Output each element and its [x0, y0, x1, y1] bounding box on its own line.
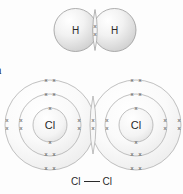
svg-text:x: x: [6, 117, 9, 123]
hydrogen-molecule: H H x x: [54, 9, 136, 52]
svg-text:x: x: [135, 139, 138, 145]
svg-text:x: x: [135, 105, 138, 111]
structural-formula-right-symbol: Cl: [103, 176, 112, 187]
svg-text:x: x: [45, 151, 48, 157]
diagram-canvas: H H x x Cl xx xx xx: [0, 0, 183, 194]
chlorine-molecule: Cl xx xx xx xx xx xx x x xx: [5, 77, 181, 171]
svg-text:x: x: [178, 117, 181, 123]
svg-text:x: x: [106, 125, 109, 131]
chlorine-right-atom: Cl xx xx xx xx xx xx x x xx: [91, 77, 181, 171]
svg-text:x: x: [164, 117, 167, 123]
svg-text:x: x: [94, 23, 97, 29]
svg-text:x: x: [45, 91, 48, 97]
svg-text:x: x: [53, 91, 56, 97]
svg-text:x: x: [139, 91, 142, 97]
svg-text:x: x: [139, 77, 142, 83]
svg-text:x: x: [20, 117, 23, 123]
svg-text:x: x: [139, 165, 142, 171]
cropped-text-fragment: n: [0, 62, 2, 78]
svg-text:x: x: [53, 151, 56, 157]
svg-text:x: x: [49, 105, 52, 111]
svg-text:x: x: [20, 125, 23, 131]
svg-text:x: x: [78, 117, 81, 123]
svg-text:x: x: [131, 151, 134, 157]
svg-text:x: x: [94, 31, 97, 37]
svg-text:x: x: [164, 125, 167, 131]
svg-text:x: x: [131, 165, 134, 171]
structural-formula-left-symbol: Cl: [71, 176, 80, 187]
hydrogen-right-label: H: [111, 25, 118, 36]
structural-formula: ClCl: [0, 176, 183, 187]
svg-text:x: x: [178, 125, 181, 131]
chlorine-left-atom: Cl xx xx xx xx xx xx x x xx: [5, 77, 95, 171]
svg-text:x: x: [106, 117, 109, 123]
bond-line: [84, 181, 100, 182]
svg-text:x: x: [92, 117, 95, 123]
svg-text:x: x: [45, 165, 48, 171]
covalent-bonding-diagram: H H x x Cl xx xx xx: [0, 0, 183, 194]
chlorine-right-label: Cl: [131, 119, 141, 131]
svg-text:x: x: [78, 125, 81, 131]
svg-text:x: x: [53, 77, 56, 83]
hydrogen-left-label: H: [72, 25, 79, 36]
svg-text:x: x: [49, 139, 52, 145]
svg-text:x: x: [139, 151, 142, 157]
svg-text:x: x: [131, 77, 134, 83]
svg-text:x: x: [92, 125, 95, 131]
svg-text:x: x: [53, 165, 56, 171]
hydrogen-overlap-region: [93, 10, 98, 51]
svg-text:x: x: [131, 91, 134, 97]
svg-text:x: x: [6, 125, 9, 131]
chlorine-left-label: Cl: [45, 119, 55, 131]
svg-text:x: x: [45, 77, 48, 83]
